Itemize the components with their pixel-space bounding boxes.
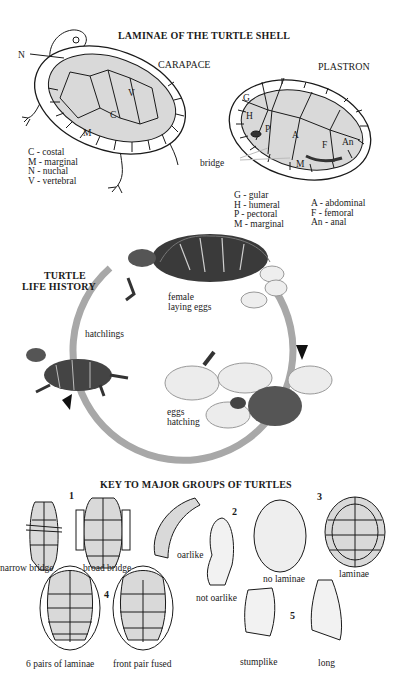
group-2-number: 2 xyxy=(232,506,237,517)
stage-female-laying-eggs: female laying eggs xyxy=(168,292,212,312)
legend-item: M - marginal xyxy=(234,220,284,230)
no-laminae-label: no laminae xyxy=(263,574,305,584)
broad-bridge-label: broad bridge xyxy=(83,563,131,573)
legend-item: An - anal xyxy=(311,218,365,228)
nuchal-pointer-label: N xyxy=(18,50,25,60)
diagram-illustrations xyxy=(0,0,397,682)
up-arrow-icon xyxy=(62,394,72,410)
laminae-title: LAMINAE OF THE TURTLE SHELL xyxy=(118,30,290,41)
plastron-legend-left: G - gular H - humeral P - pectoral M - m… xyxy=(234,191,284,229)
marginal-scute-label: M xyxy=(83,128,91,138)
abdominal-scute-label: A xyxy=(292,130,299,140)
legend-item: V - vertebral xyxy=(28,177,78,187)
hatchling-illustration xyxy=(26,348,128,396)
gular-scute-label: G xyxy=(243,93,250,103)
carapace-label: CARAPACE xyxy=(158,60,210,70)
group-5-number: 5 xyxy=(290,610,295,621)
laminae-label: laminae xyxy=(339,569,369,579)
plastron-label: PLASTRON xyxy=(318,62,370,72)
group-1-number: 1 xyxy=(69,490,74,501)
pectoral-scute-label: P xyxy=(265,124,270,134)
oarlike-label: oarlike xyxy=(177,550,203,560)
costal-scute-label: C xyxy=(110,110,116,120)
life-history-title: TURTLE LIFE HISTORY xyxy=(22,270,96,292)
long-label: long xyxy=(318,658,335,668)
six-pairs-label: 6 pairs of laminae xyxy=(26,659,94,669)
bridge-label: bridge xyxy=(200,158,224,168)
group-3-number: 3 xyxy=(317,491,322,502)
stage-eggs-hatching: eggs hatching xyxy=(167,407,200,427)
narrow-bridge-label: narrow bridge xyxy=(0,563,54,573)
plastron-marginal-label: M xyxy=(296,159,304,169)
stage-hatchlings: hatchlings xyxy=(85,329,124,339)
humeral-scute-label: H xyxy=(246,111,253,121)
group-4-number: 4 xyxy=(104,589,109,600)
key-illustrations xyxy=(26,497,385,650)
carapace-legend: C - costal M - marginal N - nuchal V - v… xyxy=(28,148,78,186)
front-pair-fused-label: front pair fused xyxy=(113,659,172,669)
vertebral-scute-label: V xyxy=(128,88,135,98)
not-oarlike-label: not oarlike xyxy=(196,593,237,603)
femoral-scute-label: F xyxy=(322,140,327,150)
plastron-illustration xyxy=(218,65,382,195)
anal-scute-label: An xyxy=(342,137,354,147)
down-arrow-icon xyxy=(296,345,308,360)
plastron-legend-right: A - abdominal F - femoral An - anal xyxy=(311,199,365,228)
key-title: KEY TO MAJOR GROUPS OF TURTLES xyxy=(100,479,292,490)
stumplike-label: stumplike xyxy=(240,657,277,667)
